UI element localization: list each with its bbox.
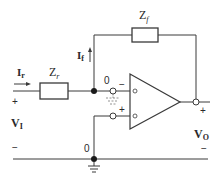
- opamp-noninverting-pin: [133, 114, 137, 118]
- feedback-impedance-label: Zf: [139, 8, 150, 24]
- feedback-impedance-box: [132, 28, 158, 42]
- input-voltage-plus: +: [12, 96, 18, 107]
- summing-node-dot: [91, 88, 97, 94]
- opamp-inverting-pin: [133, 89, 137, 93]
- ground-node-label: 0: [84, 143, 90, 154]
- output-terminal: [193, 99, 199, 105]
- input-voltage-label: VI: [11, 116, 23, 131]
- ground-node-dot: [91, 156, 97, 162]
- noninverting-terminal: [110, 113, 116, 119]
- input-current-label: Ir: [17, 66, 25, 80]
- inverting-node-label: 0: [104, 75, 110, 86]
- feedback-current-arrow-icon: [88, 47, 92, 62]
- input-impedance-label: Zr: [49, 65, 60, 81]
- opamp-minus-sign: −: [119, 79, 125, 90]
- feedback-current-label: If: [77, 49, 84, 63]
- virtual-ground-icon: [106, 94, 120, 104]
- opamp-plus-sign: +: [119, 104, 125, 115]
- ground-icon: [88, 162, 100, 172]
- noninverting-path: [94, 116, 130, 159]
- output-voltage-plus: +: [200, 105, 206, 116]
- inverting-terminal: [110, 88, 116, 94]
- circuit-diagram: Zf Zr Ir If 0 − +: [0, 0, 221, 184]
- opamp-triangle: [130, 74, 180, 129]
- output-voltage-minus: −: [201, 143, 207, 154]
- input-current-arrow-icon: [14, 82, 31, 86]
- output-voltage-label: VO: [194, 127, 209, 142]
- input-impedance-box: [40, 83, 68, 99]
- input-voltage-minus: −: [12, 142, 18, 153]
